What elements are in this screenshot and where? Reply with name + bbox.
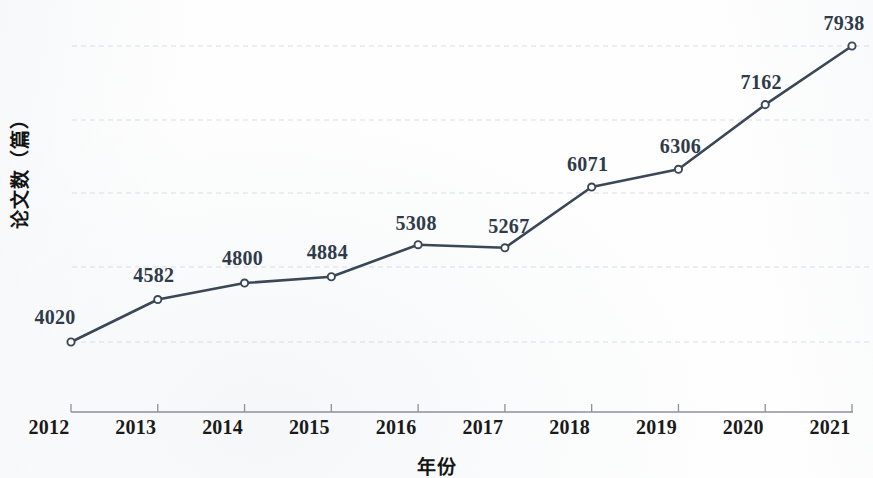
data-value-label: 6306 [660,135,701,158]
data-value-label: 7162 [741,71,782,94]
data-point-marker[interactable] [848,42,855,49]
y-axis-title: 论文数（篇） [5,89,32,249]
x-axis-tick-label-2016: 2016 [376,416,417,439]
x-axis-tick-label-2012: 2012 [29,416,70,439]
data-value-label: 4884 [307,241,348,264]
data-value-label: 4582 [133,264,174,287]
data-point-marker[interactable] [415,241,422,248]
x-axis-tick-label-2013: 2013 [115,416,156,439]
data-value-label: 4800 [222,247,263,270]
data-point-marker[interactable] [154,296,161,303]
x-axis-tick-label-2014: 2014 [202,416,243,439]
x-axis-tick-label-2020: 2020 [723,416,764,439]
x-axis-tick-label-2015: 2015 [289,416,330,439]
data-point-marker[interactable] [501,244,508,251]
data-point-marker[interactable] [762,101,769,108]
line-chart: 4020458248004884530852676071630671627938… [0,0,873,478]
data-point-marker[interactable] [67,338,74,345]
x-axis-title: 年份 [0,452,873,478]
data-point-marker[interactable] [241,279,248,286]
x-axis-tick-label-2017: 2017 [462,416,503,439]
data-point-marker[interactable] [588,183,595,190]
series-line-论文数 [71,46,852,342]
data-value-label: 5267 [488,215,529,238]
data-point-markers [67,42,855,345]
x-axis-tick-label-2021: 2021 [810,416,851,439]
x-axis-line [71,404,853,412]
data-value-label: 4020 [34,306,75,329]
data-value-label: 5308 [396,212,437,235]
data-value-label: 6071 [567,153,608,176]
data-point-marker[interactable] [328,273,335,280]
x-axis-tick-label-2018: 2018 [549,416,590,439]
data-value-label: 7938 [823,12,864,35]
data-point-marker[interactable] [675,166,682,173]
x-axis-tick-label-2019: 2019 [636,416,677,439]
